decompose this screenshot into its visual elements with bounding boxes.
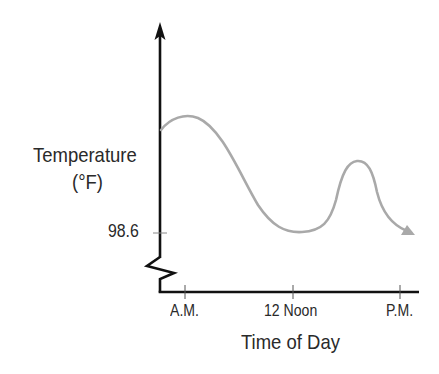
x-tick-label-pm: P.M. [386, 302, 413, 320]
y-axis-label: Temperature [33, 143, 137, 167]
temperature-chart [0, 0, 439, 374]
y-tick-label: 98.6 [108, 221, 139, 242]
temperature-curve [161, 116, 407, 232]
y-axis-break [147, 257, 174, 293]
x-axis-label: Time of Day [241, 330, 340, 354]
x-tick-label-am: A.M. [170, 302, 199, 320]
x-tick-label-noon: 12 Noon [264, 302, 317, 320]
y-axis-unit: (°F) [72, 170, 103, 194]
